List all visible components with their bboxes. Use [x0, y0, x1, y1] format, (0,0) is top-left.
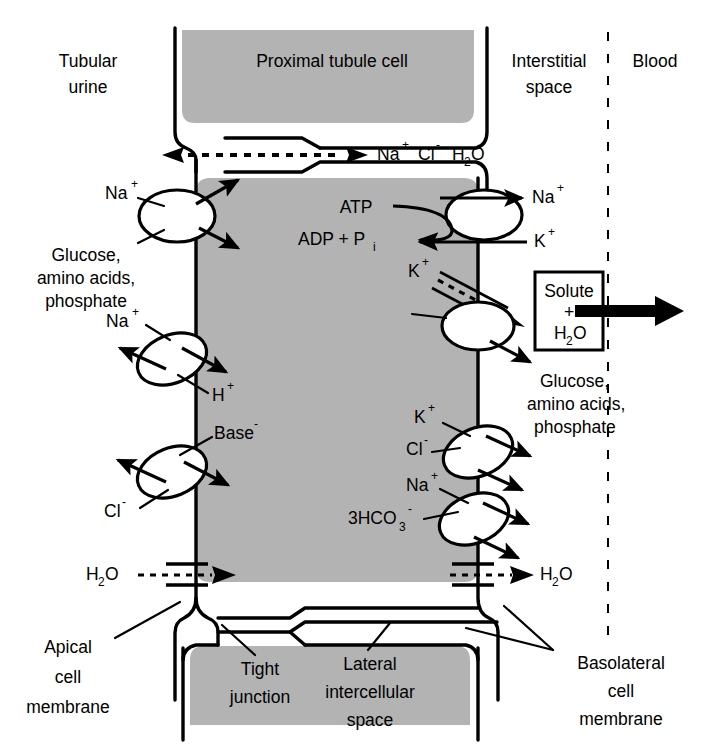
label-pump-na-out: Na [532, 187, 555, 207]
label-blood: Blood [633, 51, 678, 71]
label-lateral-space-line1: Lateral [343, 654, 397, 674]
label-tubular-urine-line1: Tubular [59, 51, 118, 71]
tight-junction-fork-left [196, 598, 218, 645]
label-solute-plus: + [564, 302, 574, 322]
label-basolateral-substrate-line3: phosphate [534, 417, 616, 437]
label-pump-na-out-charge: + [557, 181, 564, 195]
label-k-leak-charge: + [422, 255, 429, 269]
paracellular-cl-label: Cl [418, 144, 435, 164]
label-lateral-space-line2: intercellular [325, 682, 415, 702]
label-apical-membrane-line2: cell [55, 667, 81, 687]
label-apical-na-charge: + [131, 177, 138, 191]
label-adp: ADP + P [298, 229, 365, 249]
label-apical-cl: Cl [104, 501, 121, 521]
paracellular-h2o-h: H [452, 144, 465, 164]
label-apical-membrane-line3: membrane [26, 697, 110, 717]
basolateral-water-arrowhead [510, 566, 534, 584]
label-tubular-urine-line2: urine [69, 77, 108, 97]
label-atp: ATP [340, 197, 373, 217]
label-nbc-na-charge: + [431, 469, 438, 483]
label-basolateral-substrate-line1: Glucose, [540, 371, 609, 391]
label-tight-junction-line1: Tight [241, 659, 279, 679]
label-nbc-hco3: 3HCO [348, 508, 397, 528]
diagram-canvas: Tubular urine Proximal tubule cell Inter… [0, 0, 703, 747]
label-interstitial-line2: space [526, 77, 573, 97]
label-nbc-hco3-charge: - [408, 502, 412, 516]
label-base-charge: - [254, 417, 258, 431]
label-basolateral-water-o: O [559, 564, 573, 584]
label-proximal-tubule-cell: Proximal tubule cell [256, 51, 408, 71]
label-apical-water-h: H [86, 564, 99, 584]
leader-apical-membrane [115, 602, 180, 638]
label-tight-junction-line2: junction [229, 687, 290, 707]
label-nhe-na-charge: + [132, 305, 139, 319]
paracellular-na-label: Na [377, 144, 400, 164]
label-pump-k-in-charge: + [548, 225, 555, 239]
label-nbc-na: Na [406, 475, 429, 495]
paracellular-space-upper [225, 138, 320, 148]
label-apical-membrane-line1: Apical [44, 637, 92, 657]
carrier-ellipse-glut [442, 302, 514, 350]
label-solute-water-2: 2 [566, 334, 573, 348]
label-basolateral-membrane-line3: membrane [579, 709, 663, 729]
label-base: Base [214, 423, 254, 443]
label-pump-k-in: K [534, 231, 546, 251]
cytoplasm-upper-cell [182, 30, 474, 123]
paracellular-cl-charge: - [436, 138, 440, 152]
label-adp-sub-i: i [373, 240, 376, 254]
label-kcl-k: K [414, 407, 426, 427]
paracellular-pathway: Na + Cl - H 2 O [162, 138, 485, 169]
label-nhe-h-charge: + [227, 379, 234, 393]
label-nbc-hco3-sub: 3 [399, 520, 406, 534]
label-basolateral-substrate-line2: amino acids, [527, 394, 625, 414]
label-apical-cl-charge: - [122, 495, 126, 509]
paracellular-na-charge: + [402, 138, 409, 152]
label-basolateral-membrane-line2: cell [608, 681, 634, 701]
label-apical-substrate-line1: Glucose, [51, 245, 120, 265]
label-kcl-cl: Cl [406, 439, 423, 459]
label-kcl-k-charge: + [428, 401, 435, 415]
label-solute-water-o: O [573, 323, 587, 343]
label-nhe-h: H [212, 385, 225, 405]
proximal-tubule-diagram: Tubular urine Proximal tubule cell Inter… [0, 0, 703, 747]
lower-cell-top-mid [290, 632, 305, 645]
label-apical-na: Na [105, 183, 128, 203]
arrow-glut-substrate-out [490, 341, 530, 362]
label-lateral-space-line3: space [347, 710, 394, 730]
lateral-space-roof [218, 608, 478, 618]
label-solute-water-h: H [554, 323, 567, 343]
carrier-ellipse-sglt [139, 190, 215, 242]
lateral-space-left-wall [218, 622, 497, 632]
label-apical-water-o: O [105, 564, 119, 584]
label-basolateral-water-2: 2 [552, 575, 559, 589]
label-kcl-cl-charge: - [424, 433, 428, 447]
label-basolateral-water-h: H [540, 564, 553, 584]
solute-water-bulk-flow: Solute + H 2 O [535, 272, 684, 350]
label-basolateral-membrane-line1: Basolateral [577, 653, 665, 673]
paracellular-h2o-o: O [471, 144, 485, 164]
label-solute: Solute [544, 281, 594, 301]
label-apical-substrate-line2: amino acids, [37, 268, 135, 288]
label-nhe-na: Na [106, 311, 129, 331]
label-apical-substrate-line3: phosphate [45, 291, 127, 311]
label-k-leak: K [408, 261, 420, 281]
arrow-kcl-out-lower [478, 470, 522, 490]
paracellular-arrow-left [162, 147, 184, 163]
label-interstitial-line1: Interstitial [512, 51, 587, 71]
label-apical-water-2: 2 [98, 575, 105, 589]
arrow-nbc-out-lower [474, 537, 518, 558]
paracellular-h2o-2: 2 [464, 155, 471, 169]
